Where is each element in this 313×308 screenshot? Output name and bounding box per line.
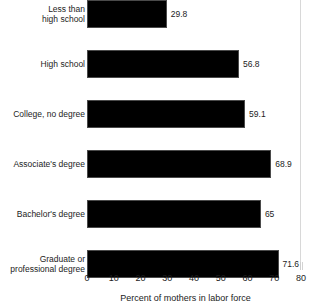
bar bbox=[87, 200, 261, 228]
x-axis-title: Percent of mothers in labor force bbox=[0, 292, 313, 304]
bar-row: High school56.8 bbox=[0, 50, 313, 78]
bar-value-label: 68.9 bbox=[271, 159, 292, 169]
x-tick-label: 20 bbox=[135, 272, 145, 284]
category-label: Graduate or professional degree bbox=[0, 254, 85, 274]
x-axis: 01020304050607080 bbox=[0, 272, 313, 286]
x-tick-label: 70 bbox=[269, 272, 279, 284]
bar bbox=[87, 100, 245, 128]
bar bbox=[87, 0, 167, 28]
category-label: Bachelor's degree bbox=[0, 209, 85, 219]
category-label: College, no degree bbox=[0, 109, 85, 119]
bar bbox=[87, 50, 239, 78]
x-tick-label: 50 bbox=[216, 272, 226, 284]
bar-row: Less than high school29.8 bbox=[0, 0, 313, 28]
bar-value-label: 56.8 bbox=[239, 59, 260, 69]
x-tick-label: 10 bbox=[109, 272, 119, 284]
bar-value-label: 65 bbox=[261, 209, 274, 219]
bar-row: Bachelor's degree65 bbox=[0, 200, 313, 228]
category-label: High school bbox=[0, 59, 85, 69]
bar-value-label: 59.1 bbox=[245, 109, 266, 119]
category-label: Associate's degree bbox=[0, 159, 85, 169]
bar-row: Associate's degree68.9 bbox=[0, 150, 313, 178]
bar-row: College, no degree59.1 bbox=[0, 100, 313, 128]
bar-value-label: 71.6 bbox=[279, 259, 300, 269]
x-tick-label: 80 bbox=[296, 272, 306, 284]
x-tick-label: 30 bbox=[162, 272, 172, 284]
bar-chart: Less than high school29.8High school56.8… bbox=[0, 0, 313, 308]
category-label: Less than high school bbox=[0, 4, 85, 24]
x-tick-label: 0 bbox=[84, 272, 89, 284]
x-tick-label: 60 bbox=[242, 272, 252, 284]
bar bbox=[87, 150, 271, 178]
bar-value-label: 29.8 bbox=[167, 9, 188, 19]
x-tick-label: 40 bbox=[189, 272, 199, 284]
